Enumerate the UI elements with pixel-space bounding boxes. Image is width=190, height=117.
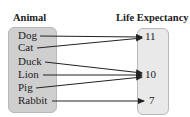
arrow-dog-11 [40, 36, 142, 37]
mapping-arrows [0, 0, 190, 117]
arrow-pig-10 [36, 77, 142, 88]
arrow-cat-11 [37, 38, 142, 48]
arrow-duck-10 [45, 62, 142, 73]
